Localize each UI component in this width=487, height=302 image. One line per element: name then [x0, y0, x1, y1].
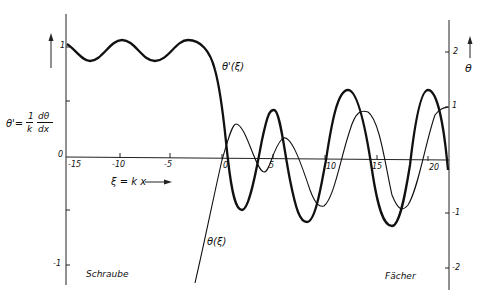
right-tick-2: 2 — [453, 47, 458, 56]
theta-prime-curve — [67, 40, 448, 226]
right-tick-minus2: -2 — [452, 263, 460, 272]
x-tick: 20 — [429, 163, 439, 172]
right-axis-label: θ — [465, 62, 472, 75]
left-tick-1: 1 — [60, 41, 65, 50]
frac2-bar — [37, 122, 53, 123]
left-tick-0: 0 — [58, 150, 63, 159]
x-tick: -15 — [68, 160, 81, 169]
x-tick: -10 — [112, 160, 125, 169]
left-axis-lhs: θ'= — [6, 118, 23, 129]
theta-prime-label: θ'(ξ) — [222, 61, 244, 72]
x-tick: 0 — [223, 161, 228, 170]
frac1-den: k — [27, 124, 32, 134]
chart-canvas — [0, 0, 487, 302]
schraube-label: Schraube — [86, 269, 129, 279]
left-axis-label: θ'= — [6, 118, 23, 129]
frac2-den: dx — [38, 124, 49, 134]
right-tick-minus1: -1 — [452, 208, 460, 217]
x-tick: 15 — [372, 162, 382, 171]
x-tick: 5 — [269, 161, 274, 170]
x-tick: -5 — [164, 160, 172, 169]
frac2-num: dθ — [38, 111, 49, 121]
right-tick-1: 1 — [452, 101, 457, 110]
frac1-bar — [26, 122, 33, 123]
theta-label: θ(ξ) — [207, 236, 227, 247]
frac1-num: 1 — [28, 111, 34, 121]
left-tick-minus1: -1 — [53, 259, 61, 268]
x-axis-label: ξ = k x — [111, 176, 146, 187]
faecher-label: Fächer — [385, 271, 416, 281]
x-tick: 10 — [326, 162, 336, 171]
